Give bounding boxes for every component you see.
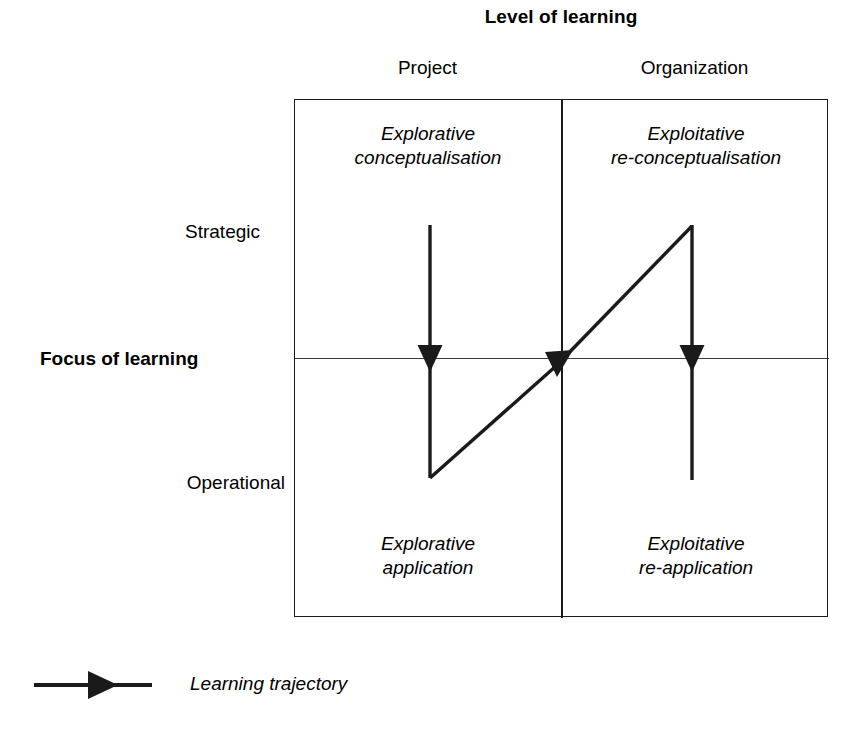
horizontal-axis-line	[295, 358, 829, 359]
quadrant-label-top-left: Explorative conceptualisation	[303, 122, 553, 171]
legend-arrow-icon	[18, 668, 168, 702]
figure-canvas: Level of learning Project Organization F…	[0, 0, 857, 730]
legend-label: Learning trajectory	[190, 673, 347, 695]
column-header-organization: Organization	[561, 57, 828, 79]
top-axis-title: Level of learning	[294, 6, 828, 28]
side-axis-title: Focus of learning	[40, 348, 252, 370]
row-header-strategic: Strategic	[58, 221, 260, 243]
quadrant-label-bottom-right: Exploitative re-application	[571, 532, 821, 581]
row-header-operational: Operational	[78, 472, 285, 494]
two-by-two-matrix: Explorative conceptualisation Exploitati…	[294, 99, 828, 617]
quadrant-label-top-right: Exploitative re-conceptualisation	[571, 122, 821, 171]
quadrant-label-bottom-left: Explorative application	[303, 532, 553, 581]
column-header-project: Project	[294, 57, 561, 79]
